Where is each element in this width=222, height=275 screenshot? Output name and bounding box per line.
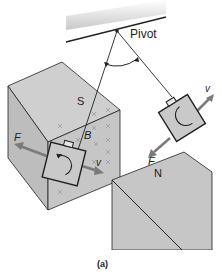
south-magnet-block — [8, 62, 120, 210]
velocity-right-label: v — [205, 84, 210, 94]
north-pole-label: N — [154, 168, 162, 179]
pendulum-plate-right — [156, 90, 206, 141]
field-label: B — [84, 130, 91, 141]
eddy-current-pendulum-diagram — [0, 0, 222, 275]
force-left-label: F — [14, 132, 21, 143]
pivot-label: Pivot — [130, 28, 157, 40]
south-pole-label: S — [77, 96, 84, 107]
force-right-label: F — [148, 156, 155, 167]
swing-arc — [105, 59, 137, 66]
north-magnet-block — [112, 152, 212, 250]
velocity-left-label: v — [96, 158, 101, 168]
figure-caption: (a) — [97, 260, 108, 269]
